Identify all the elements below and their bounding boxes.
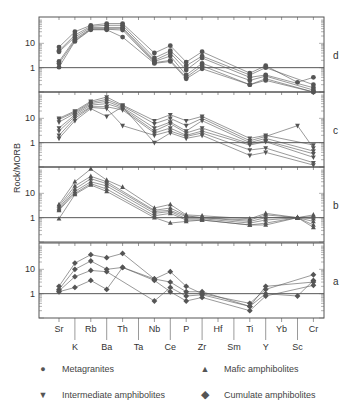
data-point-diamond [104,255,110,261]
y-tick-label: 10 [25,188,35,198]
x-tick-label: Ti [246,324,253,334]
x-tick-label: Th [117,324,128,334]
data-point-diamond [183,298,189,304]
data-point-triangle-down [57,137,62,142]
data-point-triangle-up [73,179,78,184]
panel-b: 110b [25,166,339,242]
data-point-circle [184,76,189,81]
y-tick-label: 1 [30,213,35,223]
series-line [57,182,316,229]
data-point-circle [88,27,93,32]
data-point-circle [263,78,268,83]
series-line [57,26,316,92]
y-axis-label: Rock/MORB [12,143,22,193]
data-point-triangle-down [247,143,252,148]
y-tick-label: 1 [30,138,35,148]
data-point-circle [184,63,189,68]
data-point-circle [311,75,316,80]
y-tick-label: 10 [25,38,35,48]
data-point-diamond [88,278,94,284]
panel-a: 110a [25,243,339,318]
x-tick-label: Yb [276,324,287,334]
data-point-circle [152,61,157,66]
x-tick-label: Hf [214,324,223,334]
panel-frame [39,92,324,167]
data-point-diamond [72,285,78,291]
data-point-circle [168,59,173,64]
data-point-triangle-down [184,119,189,124]
data-point-triangle-down [311,156,316,161]
data-point-triangle-down [247,148,252,153]
x-tick-label: Sr [55,324,64,334]
x-tick-label: Sm [227,342,241,352]
data-point-circle [200,56,205,61]
data-point-triangle-down [184,137,189,142]
panel-label-a: a [333,276,339,287]
x-tick-label: Nb [149,324,161,334]
series-line [57,102,316,157]
x-tick-label: Ba [101,342,112,352]
data-point-diamond [311,282,317,288]
data-point-circle [73,39,78,44]
data-point-diamond [104,286,110,292]
data-point-circle [104,27,109,32]
data-point-diamond [167,279,173,285]
data-point-triangle-down [152,122,157,127]
x-tick-label: K [72,342,78,352]
series-polyline [59,104,313,154]
panel-label-c: c [333,125,338,136]
y-tick-label: 1 [30,63,35,73]
x-axis: SrKRbBaThTaNbCePZrHfSmTiYYbScCr [55,318,319,352]
data-point-circle [200,49,205,54]
x-tick-label: Cr [309,324,319,334]
data-point-circle [247,78,252,83]
series-line [57,166,316,220]
spider-diagram: 110d110c110b110a SrKRbBaThTaNbCePZrHfSmT… [0,0,349,417]
data-point-diamond [120,265,126,271]
data-point-circle [120,28,125,33]
panel-c: 110c [25,92,338,168]
data-point-triangle-down [247,154,252,159]
series-line [57,106,316,166]
data-point-diamond [72,266,78,272]
x-tick-label: Sc [292,342,303,352]
panel-frame [39,243,324,318]
data-point-circle [200,66,205,71]
y-tick-label: 10 [25,113,35,123]
y-tick-label: 10 [25,264,35,274]
data-point-triangle-down [152,134,157,139]
x-tick-label: Ta [134,342,144,352]
data-point-circle [263,65,268,70]
data-point-circle [57,65,62,70]
panel-label-b: b [333,200,339,211]
data-point-diamond [88,258,94,264]
panel-d: 110d [25,17,339,94]
data-point-diamond [311,272,317,278]
data-point-triangle-up [311,225,316,230]
panels: 110d110c110b110a [25,17,339,318]
x-tick-label: Zr [198,342,207,352]
data-point-diamond [88,268,94,274]
data-point-diamond [263,283,269,289]
x-tick-label: Rb [85,324,97,334]
data-point-triangle-down [152,141,157,146]
data-point-circle [247,82,252,87]
data-point-circle [168,43,173,48]
data-point-circle [152,51,157,56]
data-point-triangle-down [184,124,189,129]
data-point-triangle-down [57,120,62,125]
x-tick-label: Y [263,342,269,352]
data-point-triangle-down [104,115,109,120]
panel-frame [39,167,324,242]
data-point-circle [168,54,173,59]
x-tick-label: Ce [165,342,177,352]
data-point-diamond [88,252,94,258]
data-point-circle [57,49,62,54]
data-point-diamond [120,251,126,257]
panel-label-d: d [333,50,339,61]
y-tick-label: 1 [30,289,35,299]
series-polyline [59,169,313,219]
x-tick-label: P [183,324,189,334]
data-point-circle [184,68,189,73]
data-point-diamond [72,260,78,266]
